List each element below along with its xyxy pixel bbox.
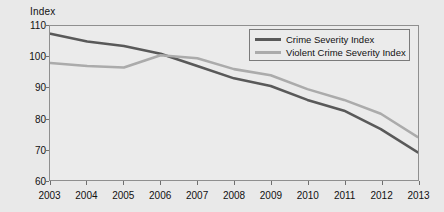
x-axis-tick-label: 2004 [75,190,97,201]
y-axis-tick-label: 110 [20,20,46,31]
x-axis-tick-mark [419,181,420,185]
y-axis-tick-mark [45,56,49,57]
line-chart: Index 60708090100110 2003200420052006200… [0,0,444,212]
x-axis-tick-label: 2008 [223,190,245,201]
x-axis-tick-mark [271,181,272,185]
x-axis-tick-mark [308,181,309,185]
legend-label: Violent Crime Severity Index [286,46,406,59]
legend-swatch-violent-crime-severity-index [255,51,281,54]
legend-label: Crime Severity Index [286,33,374,46]
x-axis-tick-label: 2005 [112,190,134,201]
chart-legend: Crime Severity Index Violent Crime Sever… [249,29,410,61]
legend-swatch-crime-severity-index [255,38,281,41]
x-axis-tick-label: 2007 [186,190,208,201]
x-axis-tick-label: 2011 [334,190,356,201]
x-axis-tick-mark [234,181,235,185]
y-axis-tick-label: 90 [20,82,46,93]
y-axis-tick-label: 70 [20,144,46,155]
y-axis-tick-mark [45,150,49,151]
x-axis-tick-mark [382,181,383,185]
legend-item: Violent Crime Severity Index [255,46,404,59]
y-axis-tick-mark [45,119,49,120]
y-axis-tick-label: 80 [20,113,46,124]
y-axis-tick-mark [45,87,49,88]
x-axis-tick-label: 2010 [297,190,319,201]
x-axis-tick-mark [50,181,51,185]
x-axis-tick-mark [86,181,87,185]
x-axis-tick-mark [160,181,161,185]
x-axis-tick-mark [345,181,346,185]
series-line [50,55,417,137]
legend-item: Crime Severity Index [255,33,404,46]
x-axis-tick-mark [197,181,198,185]
y-axis-tick-labels: 60708090100110 [18,0,46,212]
x-axis-tick-label: 2012 [370,190,392,201]
x-axis-tick-label: 2003 [38,190,60,201]
x-axis-tick-label: 2006 [149,190,171,201]
y-axis-tick-mark [45,25,49,26]
y-axis-tick-label: 100 [20,51,46,62]
x-axis-tick-labels: 2003200420052006200720082009201020112012… [0,184,444,208]
y-axis-tick-mark [45,181,49,182]
x-axis-tick-label: 2009 [260,190,282,201]
x-axis-tick-mark [123,181,124,185]
x-axis-tick-label: 2013 [407,190,429,201]
